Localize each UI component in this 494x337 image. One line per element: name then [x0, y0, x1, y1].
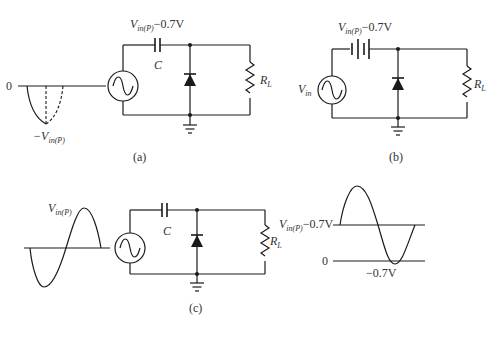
resistor-icon [463, 66, 471, 97]
resistor-label-a: RL [259, 73, 272, 89]
battery-voltage-label-b: Vin(P)−0.7V [338, 20, 393, 36]
caption-a: (a) [133, 150, 146, 164]
ground-icon [190, 274, 204, 291]
capacitor-icon [162, 203, 167, 217]
ground-icon [183, 115, 197, 133]
diode-icon [184, 74, 196, 86]
cap-voltage-label-a: Vin(P)−0.7V [130, 17, 185, 33]
diode-icon [191, 235, 203, 247]
source-label-b: Vin [298, 82, 312, 98]
waveform-dash-a [46, 86, 63, 124]
battery-icon [352, 39, 369, 59]
clamper-circuits-figure: 0 −Vin(P) Vin(P)−0.7V C [0, 0, 494, 337]
diode-icon [392, 78, 404, 90]
circuit-c: Vin(P) C [24, 186, 425, 315]
waveform-solid-a [27, 86, 46, 124]
input-peak-label-c: Vin(P) [48, 201, 72, 217]
output-min-label-c: −0.7V [366, 266, 397, 280]
caption-c: (c) [189, 301, 202, 315]
ground-icon [391, 118, 405, 135]
caption-b: (b) [389, 150, 403, 164]
peak-label-a: −Vin(P) [33, 129, 65, 145]
output-level-label-c: Vin(P)−0.7V [279, 217, 334, 233]
zero-label-a: 0 [6, 79, 12, 93]
circuit-b: Vin Vin(P)−0.7V RL [298, 20, 486, 164]
circuit-a: 0 −Vin(P) Vin(P)−0.7V C [6, 17, 272, 164]
ac-source-icon [115, 233, 145, 263]
resistor-icon [261, 225, 269, 256]
capacitor-label-a: C [154, 58, 163, 72]
capacitor-icon [155, 38, 160, 52]
capacitor-label-c: C [163, 224, 172, 238]
resistor-label-b: RL [473, 77, 486, 93]
resistor-label-c: RL [269, 234, 282, 250]
ac-source-icon [108, 71, 138, 101]
ac-source-icon [318, 76, 346, 104]
output-zero-label-c: 0 [322, 254, 328, 268]
resistor-icon [246, 62, 254, 93]
